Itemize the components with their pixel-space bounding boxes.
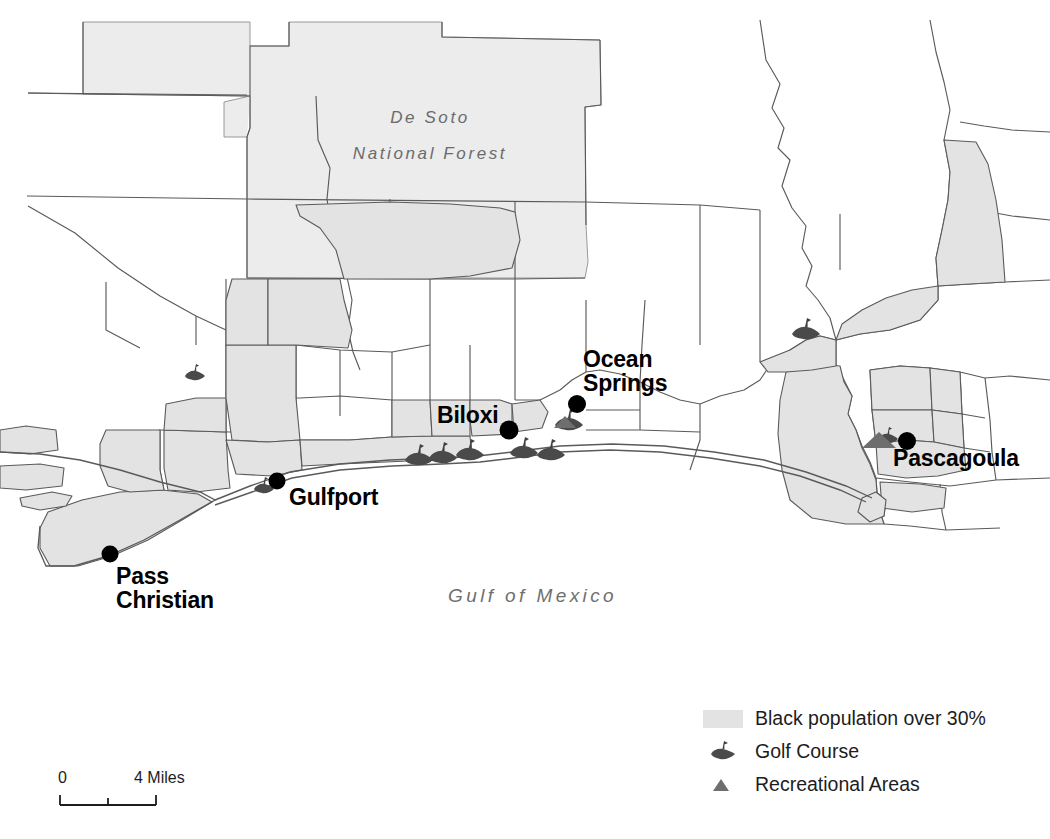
city-dot-ocean-springs bbox=[568, 395, 586, 413]
legend-label-recreational-areas: Recreational Areas bbox=[755, 773, 920, 796]
legend-item-black-population: Black population over 30% bbox=[703, 702, 1043, 735]
scale-min-label: 0 bbox=[58, 769, 67, 787]
city-label-gulfport: Gulfport bbox=[289, 485, 378, 509]
legend-swatch-cell bbox=[703, 740, 755, 764]
legend-label-golf-course: Golf Course bbox=[755, 740, 859, 763]
city-label-ocean-springs: OceanSprings bbox=[583, 347, 667, 395]
city-dot-pass-christian bbox=[102, 546, 119, 563]
city-label-biloxi: Biloxi bbox=[437, 403, 498, 427]
label-de-soto-national-forest: De SotoNational Forest bbox=[330, 100, 530, 172]
label-gulf-of-mexico: Gulf of Mexico bbox=[448, 585, 617, 607]
scale-bar: 0 4 Miles bbox=[58, 769, 238, 808]
city-dot-biloxi bbox=[500, 421, 519, 440]
city-label-pascagoula: Pascagoula bbox=[893, 446, 1019, 470]
legend: Black population over 30% Golf Course Re… bbox=[703, 702, 1043, 801]
scale-max-label: 4 Miles bbox=[134, 769, 185, 787]
recreational-area-icon bbox=[710, 775, 732, 795]
scale-bar-graphic bbox=[58, 794, 238, 808]
scale-bar-icon bbox=[58, 794, 188, 808]
legend-item-recreational-areas: Recreational Areas bbox=[703, 768, 1043, 801]
black-population-swatch bbox=[703, 710, 743, 728]
city-label-pass-christian: PassChristian bbox=[116, 564, 214, 612]
legend-label-black-population: Black population over 30% bbox=[755, 707, 986, 730]
scale-bar-labels: 0 4 Miles bbox=[58, 769, 238, 791]
legend-item-golf-course: Golf Course bbox=[703, 735, 1043, 768]
map-canvas: De SotoNational Forest Gulf of Mexico Pa… bbox=[0, 0, 1050, 839]
legend-swatch-cell bbox=[703, 710, 755, 728]
golf-course-icon bbox=[703, 740, 743, 764]
city-dot-gulfport bbox=[269, 473, 286, 490]
legend-swatch-cell bbox=[703, 775, 755, 795]
